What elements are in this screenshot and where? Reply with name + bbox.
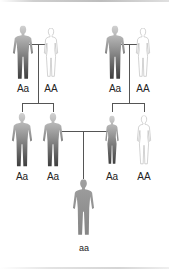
- sibling-line-left: [22, 103, 54, 104]
- g1-right-female: [133, 25, 153, 81]
- g1-left-female: [41, 25, 61, 81]
- g2-child-2: [42, 112, 64, 169]
- bottom-border: [0, 267, 169, 269]
- genotype-label: AA: [36, 84, 66, 94]
- female-figure-icon: [134, 112, 154, 169]
- genotype-label: Aa: [97, 172, 127, 182]
- female-figure-icon: [133, 25, 153, 81]
- couple-line-middle: [60, 131, 108, 132]
- sib-drop-right-2: [144, 103, 145, 112]
- sib-drop-left-1: [22, 103, 23, 112]
- male-figure-icon: [72, 178, 95, 238]
- g1-right-male: [104, 25, 126, 81]
- genotype-label: aa: [69, 243, 99, 253]
- genotype-label: Aa: [100, 84, 130, 94]
- sib-drop-left-2: [53, 103, 54, 112]
- descent-line-right: [129, 44, 130, 103]
- g2-child-4: [134, 112, 154, 169]
- descent-line-left: [38, 44, 39, 103]
- descent-line-middle: [83, 131, 84, 179]
- g2-child-1: [11, 112, 33, 169]
- genotype-label: AA: [128, 84, 158, 94]
- male-figure-icon: [12, 25, 34, 81]
- sibling-line-right: [112, 103, 145, 104]
- male-figure-icon: [42, 112, 64, 169]
- male-figure-icon: [104, 25, 126, 81]
- top-border: [0, 0, 169, 2]
- male-figure-icon: [11, 112, 33, 169]
- g1-left-male: [12, 25, 34, 81]
- genotype-label: Aa: [8, 84, 38, 94]
- genotype-label: Aa: [38, 172, 68, 182]
- female-figure-icon: [41, 25, 61, 81]
- sib-drop-right-1: [112, 103, 113, 112]
- g3-child-1: [72, 178, 95, 238]
- genotype-label: AA: [129, 172, 159, 182]
- female-figure-icon: [102, 112, 122, 169]
- genotype-label: Aa: [7, 172, 37, 182]
- g2-child-3: [102, 112, 122, 169]
